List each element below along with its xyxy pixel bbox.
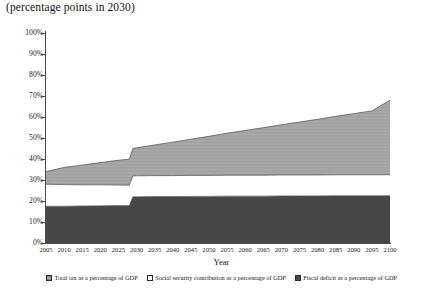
y-axis-tick-mark	[41, 117, 46, 118]
x-axis-tick-label: 2080	[311, 247, 324, 254]
x-axis-tick-label: 2065	[257, 247, 270, 254]
x-axis-tick-label: 2025	[112, 247, 125, 254]
x-axis-tick-label: 2005	[39, 247, 52, 254]
x-axis-tick-label: 2085	[329, 247, 342, 254]
y-axis-tick-mark	[41, 222, 46, 223]
white-square-icon	[147, 275, 153, 281]
x-axis-tick-label: 2055	[220, 247, 233, 254]
dark-square-icon	[295, 275, 301, 281]
y-axis-tick-mark	[41, 180, 46, 181]
x-axis-tick-label: 2020	[94, 247, 107, 254]
chart-legend: Total tax as a percentage of GDPSocial s…	[0, 275, 443, 281]
chart-container: (percentage points in 2030) 0%10%20%30%4…	[0, 0, 443, 289]
x-axis-tick-label: 2040	[166, 247, 179, 254]
x-axis-tick-label: 2075	[293, 247, 306, 254]
y-axis-tick-labels: 0%10%20%30%40%50%60%70%80%90%100%	[0, 0, 43, 289]
x-axis-tick-label: 2090	[347, 247, 360, 254]
legend-item-label: Fiscal deficit as a percentage of GDP	[303, 275, 397, 281]
legend-item: Total tax as a percentage of GDP	[46, 275, 138, 281]
x-axis-tick-label: 2045	[184, 247, 197, 254]
y-axis-tick-mark	[41, 54, 46, 55]
y-axis-tick-mark	[41, 138, 46, 139]
legend-item: Social security contribution as a percen…	[147, 275, 286, 281]
hatch-gray-square-icon	[46, 275, 52, 281]
stacked-area-series	[46, 33, 390, 243]
x-axis-tick-label: 2030	[130, 247, 143, 254]
y-axis-tick-mark	[41, 201, 46, 202]
x-axis-tick-label: 2060	[239, 247, 252, 254]
y-axis-tick-mark	[41, 75, 46, 76]
x-axis-tick-label: 2015	[76, 247, 89, 254]
plot-area	[46, 33, 390, 243]
legend-item-label: Social security contribution as a percen…	[155, 275, 286, 281]
y-axis-tick-mark	[41, 96, 46, 97]
x-axis-tick-label: 2050	[202, 247, 215, 254]
x-axis-tick-label: 2035	[148, 247, 161, 254]
x-axis-title: Year	[0, 257, 443, 267]
x-axis-tick-label: 2010	[58, 247, 71, 254]
y-axis-tick-mark	[41, 159, 46, 160]
legend-item: Fiscal deficit as a percentage of GDP	[295, 275, 397, 281]
x-axis-tick-label: 2100	[383, 247, 396, 254]
y-axis-tick-mark	[41, 243, 46, 244]
x-axis-line	[45, 243, 391, 244]
x-axis-tick-label: 2070	[275, 247, 288, 254]
legend-item-label: Total tax as a percentage of GDP	[55, 275, 138, 281]
x-axis-tick-label: 2095	[365, 247, 378, 254]
area-band-3	[46, 100, 390, 185]
y-axis-tick-mark	[41, 33, 46, 34]
